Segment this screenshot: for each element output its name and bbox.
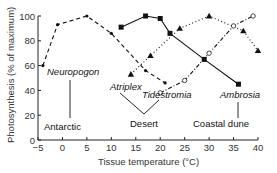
y-axis-label: Photosynthesis (% of maximum) [5, 7, 16, 143]
data-point [158, 16, 163, 21]
x-tick-label: 5 [84, 142, 89, 153]
x-tick-label: 25 [179, 142, 190, 153]
data-point [251, 14, 255, 18]
label-tidestromia: Tidestromia [142, 89, 192, 100]
data-point [110, 32, 113, 35]
label-ambrosia: Ambrosia [219, 89, 260, 100]
data-point [164, 81, 167, 84]
x-tick-label: 35 [228, 142, 239, 153]
data-point [56, 23, 59, 26]
x-tick-label: 20 [155, 142, 166, 153]
data-point [206, 13, 212, 19]
data-point [41, 64, 44, 67]
data-point [128, 71, 134, 77]
y-tick-label: 0 [30, 135, 35, 146]
data-point [182, 78, 186, 82]
y-tick-label: 80 [24, 35, 35, 46]
x-tick-label: 30 [204, 142, 215, 153]
y-tick-label: 40 [24, 85, 35, 96]
data-point [143, 14, 148, 19]
label-antarctic: Antarctic [44, 121, 81, 132]
x-tick-label: 0 [60, 142, 65, 153]
data-point [85, 14, 88, 17]
data-point [168, 31, 173, 36]
data-point [177, 25, 183, 31]
label-neuropogon: Neuropogon [47, 66, 99, 77]
series-line [131, 16, 258, 74]
label-desert: Desert [130, 118, 158, 129]
data-point [147, 52, 153, 58]
data-point [144, 69, 147, 72]
data-point [231, 24, 235, 28]
label-coastal-dune: Coastal dune [193, 118, 249, 129]
x-tick-label: 15 [130, 142, 141, 153]
x-tick-label: 10 [106, 142, 117, 153]
x-tick-label: 40 [253, 142, 264, 153]
data-point [207, 51, 211, 55]
data-point [119, 25, 124, 30]
series-group [41, 13, 261, 95]
y-tick-label: 60 [24, 60, 35, 71]
data-point [236, 82, 241, 87]
series-ambrosia [119, 14, 241, 87]
data-point [202, 57, 207, 62]
x-axis-label: Tissue temperature (°C) [98, 156, 199, 167]
label-atriplex: Atriplex [109, 81, 143, 92]
series-line [160, 16, 253, 93]
photosynthesis-chart: −50510152025303540020406080100 Neuropogo… [0, 0, 277, 173]
y-tick-label: 100 [19, 11, 35, 22]
y-tick-label: 20 [24, 110, 35, 121]
